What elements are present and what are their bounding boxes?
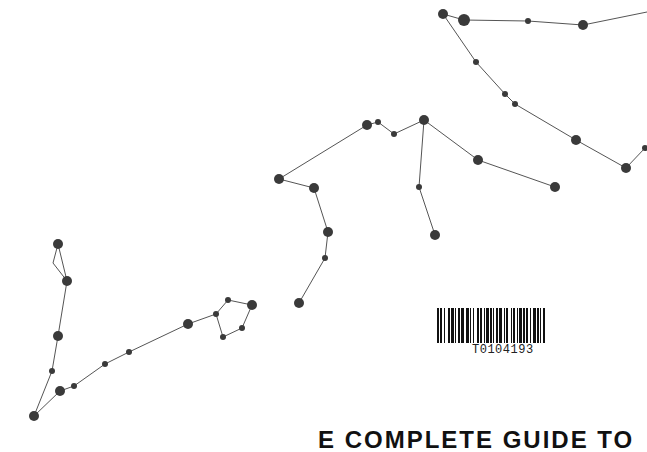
star-icon <box>71 383 77 389</box>
constellation-line <box>105 352 129 364</box>
constellation-line <box>34 371 52 416</box>
constellation-line <box>464 20 528 21</box>
star-icon <box>294 298 304 308</box>
star-icon <box>571 135 581 145</box>
star-icon <box>49 368 55 374</box>
constellation-line <box>583 12 647 25</box>
star-icon <box>458 14 470 26</box>
constellation-line <box>34 391 60 416</box>
constellation-line <box>478 160 555 187</box>
constellation-line <box>576 140 626 168</box>
constellation-line <box>476 62 505 94</box>
star-icon <box>220 334 226 340</box>
constellation-line <box>129 324 188 352</box>
constellation-line <box>216 314 223 337</box>
star-icon <box>512 101 518 107</box>
star-icon <box>247 300 257 310</box>
star-icon <box>416 184 422 190</box>
star-icon <box>362 120 372 130</box>
constellation-line <box>528 21 583 25</box>
star-icon <box>502 91 508 97</box>
constellation-line <box>223 328 242 337</box>
star-icon <box>309 183 319 193</box>
star-icon <box>525 18 531 24</box>
star-icon <box>419 115 429 125</box>
constellation-line <box>419 120 424 187</box>
constellation-line <box>424 120 478 160</box>
constellation-line <box>299 258 325 303</box>
star-icon <box>473 155 483 165</box>
cover-title: E COMPLETE GUIDE TO <box>318 428 634 452</box>
barcode-icon <box>437 308 546 343</box>
star-icon <box>213 311 219 317</box>
star-icon <box>62 276 72 286</box>
star-icon <box>323 227 333 237</box>
star-icon <box>438 9 448 19</box>
constellation-line <box>515 104 576 140</box>
constellation-line <box>279 179 314 188</box>
star-icon <box>55 386 65 396</box>
star-icon <box>473 59 479 65</box>
constellation-line <box>58 281 67 336</box>
star-icon <box>375 119 381 125</box>
star-icon <box>322 255 328 261</box>
star-icon <box>225 297 231 303</box>
star-icon <box>239 325 245 331</box>
star-icon <box>102 361 108 367</box>
constellation-line <box>52 336 58 371</box>
constellation-line <box>279 125 367 179</box>
star-icon <box>53 239 63 249</box>
star-icon <box>29 411 39 421</box>
star-icon <box>126 349 132 355</box>
constellation-line <box>74 364 105 386</box>
star-icon <box>274 174 284 184</box>
star-icon <box>430 230 440 240</box>
constellation-line <box>314 188 328 232</box>
star-icon <box>550 182 560 192</box>
constellation-line <box>419 187 435 235</box>
star-icon <box>621 163 631 173</box>
star-icon <box>53 331 63 341</box>
star-icon <box>578 20 588 30</box>
star-icon <box>391 131 397 137</box>
star-icon <box>183 319 193 329</box>
barcode-number: T0104193 <box>472 343 534 357</box>
